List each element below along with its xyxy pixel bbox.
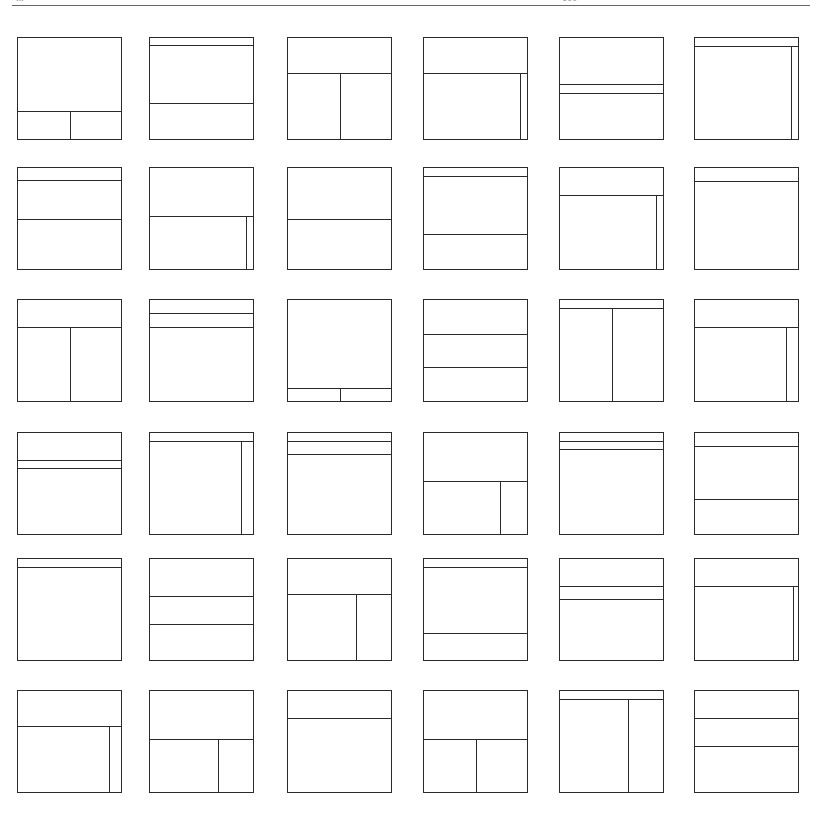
- layout-thumbnail: [287, 432, 392, 535]
- horizontal-divider: [18, 219, 121, 220]
- layout-thumbnail: [694, 299, 799, 402]
- horizontal-divider: [424, 567, 527, 568]
- vertical-divider: [791, 46, 792, 139]
- layout-thumbnail: [423, 299, 528, 402]
- horizontal-divider: [424, 334, 527, 335]
- vertical-divider: [241, 441, 242, 534]
- layout-thumbnail: [694, 167, 799, 270]
- horizontal-divider: [424, 633, 527, 634]
- horizontal-divider: [150, 441, 253, 442]
- horizontal-divider: [560, 699, 663, 700]
- vertical-divider: [218, 739, 219, 792]
- layout-thumbnail: [17, 299, 122, 402]
- horizontal-divider: [150, 313, 253, 314]
- layout-thumbnail: [423, 558, 528, 661]
- layout-thumbnail: [149, 432, 254, 535]
- layout-thumbnail: [287, 558, 392, 661]
- horizontal-divider: [560, 93, 663, 94]
- vertical-divider: [246, 216, 247, 269]
- horizontal-divider: [288, 454, 391, 455]
- horizontal-divider: [695, 746, 798, 747]
- horizontal-divider: [288, 594, 391, 595]
- vertical-divider: [70, 111, 71, 139]
- horizontal-divider: [560, 586, 663, 587]
- layout-thumbnail: [423, 432, 528, 535]
- layout-thumbnail: [694, 37, 799, 140]
- layout-thumbnail: [423, 167, 528, 270]
- horizontal-divider: [695, 327, 798, 328]
- running-header-text: ...: [16, 0, 24, 4]
- horizontal-divider: [695, 499, 798, 500]
- vertical-divider: [628, 699, 629, 792]
- horizontal-divider: [288, 441, 391, 442]
- layout-thumbnail: [559, 558, 664, 661]
- layout-thumbnail: [559, 299, 664, 402]
- layout-thumbnail: [694, 432, 799, 535]
- horizontal-divider: [424, 481, 527, 482]
- horizontal-divider: [18, 180, 121, 181]
- vertical-divider: [520, 73, 521, 139]
- horizontal-divider: [695, 446, 798, 447]
- horizontal-divider: [695, 46, 798, 47]
- layout-thumbnail: [17, 558, 122, 661]
- horizontal-divider: [150, 624, 253, 625]
- horizontal-divider: [695, 718, 798, 719]
- vertical-divider: [340, 388, 341, 401]
- horizontal-divider: [18, 468, 121, 469]
- layout-thumbnail: [287, 37, 392, 140]
- horizontal-divider: [150, 596, 253, 597]
- layout-thumbnail: [287, 690, 392, 793]
- horizontal-divider: [424, 73, 527, 74]
- horizontal-divider: [424, 234, 527, 235]
- layout-thumbnail: [423, 690, 528, 793]
- layout-thumbnail: [559, 690, 664, 793]
- layout-thumbnail: [694, 690, 799, 793]
- layout-thumbnail: [287, 167, 392, 270]
- vertical-divider: [476, 739, 477, 792]
- horizontal-divider: [560, 441, 663, 442]
- vertical-divider: [340, 73, 341, 139]
- horizontal-divider: [288, 219, 391, 220]
- vertical-divider: [109, 726, 110, 792]
- horizontal-divider: [150, 45, 253, 46]
- vertical-divider: [500, 481, 501, 534]
- horizontal-divider: [18, 726, 121, 727]
- layout-thumbnail: [423, 37, 528, 140]
- layout-thumbnail: [559, 37, 664, 140]
- layout-thumbnail: [694, 558, 799, 661]
- horizontal-divider: [150, 103, 253, 104]
- vertical-divider: [656, 195, 657, 269]
- horizontal-divider: [150, 216, 253, 217]
- horizontal-divider: [560, 449, 663, 450]
- vertical-divider: [356, 594, 357, 660]
- layout-thumbnail: [559, 432, 664, 535]
- header-rule: [12, 5, 810, 6]
- vertical-divider: [786, 327, 787, 401]
- layout-thumbnail: [17, 37, 122, 140]
- layout-thumbnail: [17, 690, 122, 793]
- horizontal-divider: [18, 460, 121, 461]
- vertical-divider: [70, 327, 71, 401]
- horizontal-divider: [150, 327, 253, 328]
- layout-thumbnail: [287, 299, 392, 402]
- horizontal-divider: [560, 599, 663, 600]
- horizontal-divider: [695, 586, 798, 587]
- horizontal-divider: [150, 739, 253, 740]
- layout-thumbnail: [149, 37, 254, 140]
- layout-thumbnail: [17, 432, 122, 535]
- layout-thumbnail: [149, 558, 254, 661]
- vertical-divider: [793, 586, 794, 660]
- layout-thumbnail: [149, 690, 254, 793]
- horizontal-divider: [288, 718, 391, 719]
- layout-thumbnail: [17, 167, 122, 270]
- horizontal-divider: [18, 567, 121, 568]
- horizontal-divider: [560, 195, 663, 196]
- layout-thumbnail: [149, 299, 254, 402]
- vertical-divider: [612, 308, 613, 401]
- page-number: 100: [562, 0, 577, 4]
- horizontal-divider: [695, 181, 798, 182]
- layout-thumbnail: [559, 167, 664, 270]
- horizontal-divider: [424, 367, 527, 368]
- horizontal-divider: [560, 84, 663, 85]
- horizontal-divider: [424, 176, 527, 177]
